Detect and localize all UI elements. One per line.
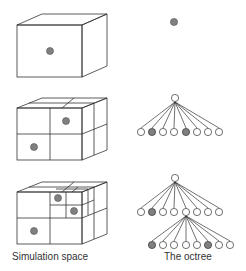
simulation-space-label: Simulation space <box>12 251 88 262</box>
particle <box>31 228 38 235</box>
particle <box>31 144 38 151</box>
tree-node-filled <box>170 18 177 25</box>
octree-diagram <box>0 0 246 271</box>
cube-level-0 <box>17 14 107 77</box>
particle <box>71 208 78 215</box>
cube-level-1 <box>17 98 107 160</box>
tree-level-1 <box>137 94 222 135</box>
particle <box>63 118 70 125</box>
particle <box>47 48 54 55</box>
particle <box>55 195 62 202</box>
tree-level-2 <box>137 174 233 248</box>
cube-level-2 <box>17 182 107 244</box>
octree-label: The octree <box>164 251 212 262</box>
